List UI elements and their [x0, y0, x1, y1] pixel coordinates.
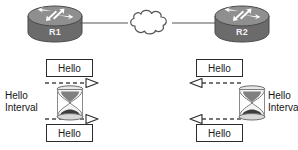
router-r1[interactable]: R1 — [26, 4, 84, 44]
hello-interval-label-right: Hello Interval — [268, 90, 298, 114]
hourglass-icon — [53, 85, 87, 121]
router-r2[interactable]: R2 — [213, 4, 271, 44]
hello-interval-label-left-line1: Hello — [5, 90, 38, 102]
hello-message-top-left: Hello — [46, 59, 93, 77]
hello-message-bottom-left: Hello — [46, 124, 93, 142]
hello-message-bottom-right: Hello — [196, 124, 243, 142]
hello-interval-label-left-line2: Interval — [5, 102, 38, 114]
hourglass-icon — [235, 85, 269, 121]
hello-interval-label-right-line1: Hello — [268, 90, 298, 102]
network-link — [80, 4, 220, 44]
cloud-icon — [131, 10, 166, 34]
diagram-canvas: R1 R2 Hello Hello Hel — [0, 0, 298, 150]
hello-interval-label-left: Hello Interval — [5, 90, 38, 114]
hourglass-icon-left — [53, 85, 87, 121]
router-icon — [26, 4, 84, 44]
hello-message-top-right: Hello — [196, 59, 243, 77]
router-icon — [213, 4, 271, 44]
hello-interval-label-right-line2: Interval — [268, 102, 298, 114]
hourglass-icon-right — [235, 85, 269, 121]
